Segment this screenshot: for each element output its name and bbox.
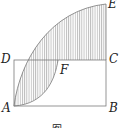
- label-e: E: [107, 0, 117, 11]
- label-d: D: [0, 52, 11, 66]
- label-c: C: [109, 52, 118, 66]
- figure-caption: 图: [52, 124, 62, 128]
- label-b: B: [108, 101, 118, 115]
- geometry-figure: A B C D E F 图: [0, 0, 120, 128]
- label-f: F: [59, 63, 69, 77]
- hatched-region: [14, 4, 106, 106]
- label-a: A: [1, 101, 11, 115]
